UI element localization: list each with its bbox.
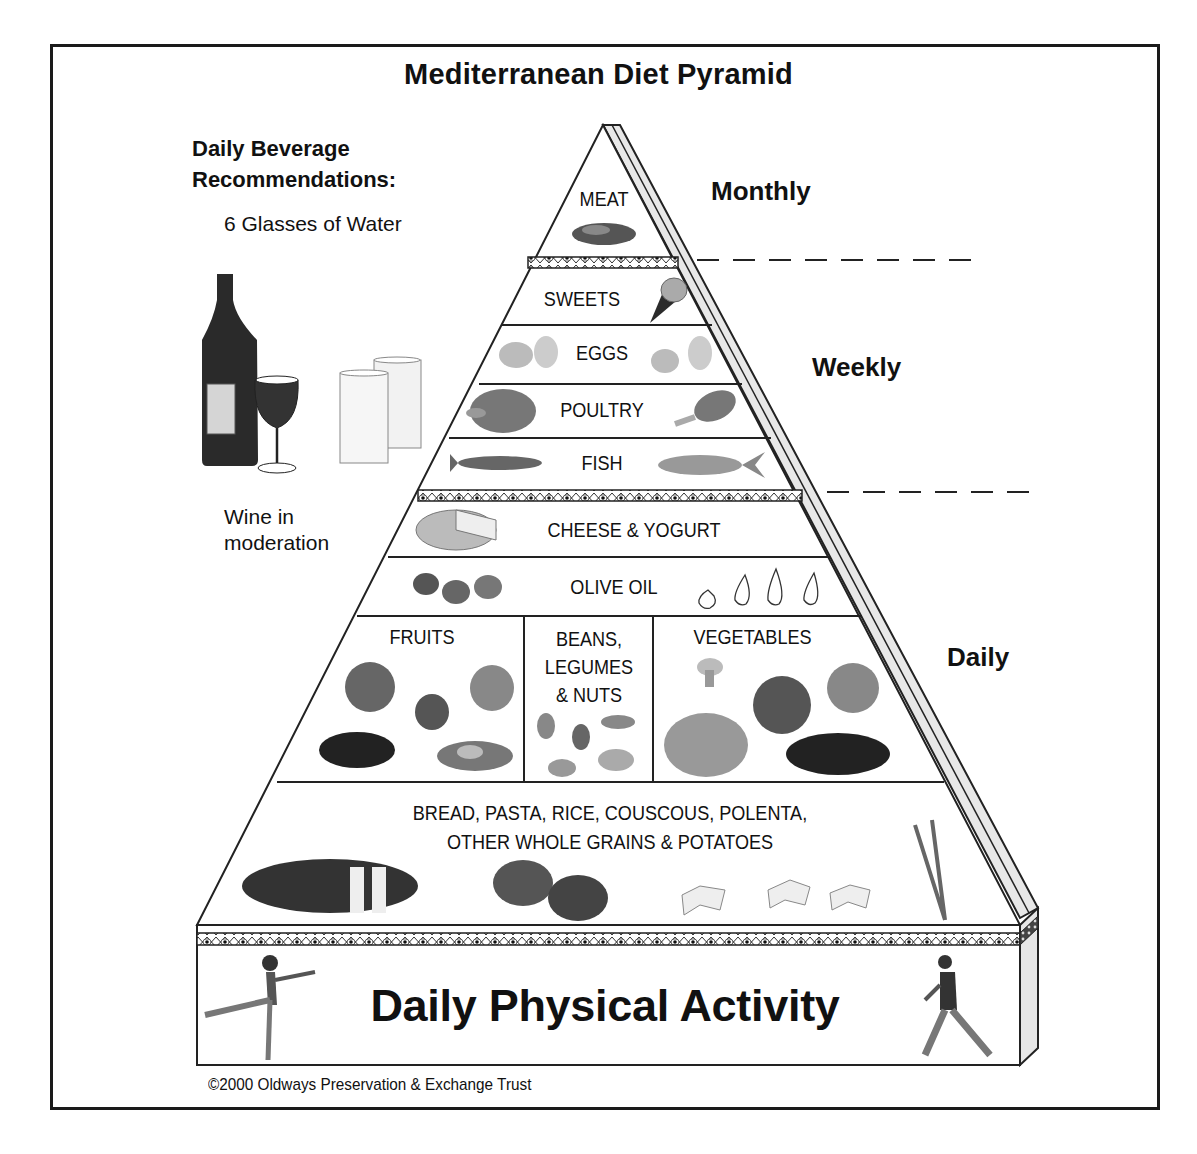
wine-glass-icon — [255, 376, 298, 473]
beans-line1: BEANS, — [535, 625, 643, 653]
tier-sweets-label: SWEETS — [539, 287, 625, 311]
almond-icon — [537, 713, 555, 739]
tier-beans-label: BEANS, LEGUMES & NUTS — [535, 625, 643, 709]
copyright-notice: ©2000 Oldways Preservation & Exchange Tr… — [208, 1075, 531, 1095]
tier-olive-oil-label: OLIVE OIL — [545, 575, 683, 599]
tier-vegetables-label: VEGETABLES — [682, 625, 824, 649]
tomato-icon — [753, 676, 811, 734]
onion-icon — [827, 663, 879, 713]
potatoes-icon — [493, 860, 553, 906]
peach-icon — [470, 665, 514, 711]
tier-fruits-label: FRUITS — [379, 625, 465, 649]
physical-activity-label: Daily Physical Activity — [320, 980, 890, 1032]
tier-grains-label: BREAD, PASTA, RICE, COUSCOUS, POLENTA, O… — [343, 798, 876, 856]
steak-icon — [572, 223, 636, 245]
strawberry-icon — [415, 694, 449, 730]
water-glasses-icon — [340, 357, 421, 463]
tier-fish-label: FISH — [559, 451, 645, 475]
wine-bottle-icon — [202, 274, 258, 466]
peanut-icon — [598, 749, 634, 771]
cabbage-icon — [664, 713, 748, 777]
grains-line2: OTHER WHOLE GRAINS & POTATOES — [343, 827, 876, 856]
beans-line2: LEGUMES — [535, 653, 643, 681]
cheese-wheel-icon — [416, 510, 496, 550]
tier-meat-label: MEAT — [561, 187, 647, 211]
grapes-icon — [319, 732, 395, 768]
bread-loaf-icon — [242, 859, 418, 913]
tier-cheese-yogurt-label: CHEESE & YOGURT — [531, 518, 737, 542]
tier-eggs-label: EGGS — [559, 341, 645, 365]
tier-poultry-label: POULTRY — [559, 398, 645, 422]
grains-line1: BREAD, PASTA, RICE, COUSCOUS, POLENTA, — [343, 798, 876, 827]
eggplant-icon — [786, 733, 890, 775]
cashew-icon — [572, 724, 590, 750]
beans-line3: & NUTS — [535, 681, 643, 709]
apple-icon — [345, 662, 395, 712]
